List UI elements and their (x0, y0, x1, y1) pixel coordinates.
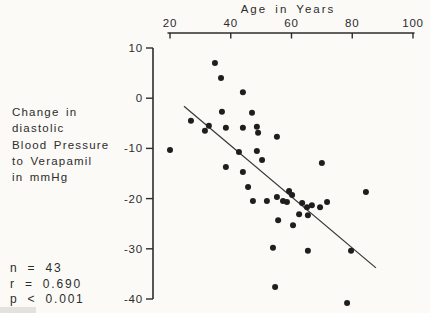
data-point (309, 202, 315, 208)
x-tick-label: 40 (224, 17, 238, 29)
data-point (348, 248, 354, 254)
x-tick-label: 60 (284, 17, 298, 29)
data-point (299, 200, 305, 206)
data-point (223, 125, 229, 131)
data-point (223, 164, 229, 170)
data-point (305, 248, 311, 254)
data-point (167, 147, 173, 153)
x-tick-label: 80 (345, 17, 359, 29)
data-point (254, 124, 260, 130)
y-tick-label: -40 (124, 293, 143, 305)
data-point (202, 128, 208, 134)
data-point (212, 60, 218, 66)
data-point (240, 169, 246, 175)
data-point (305, 212, 311, 218)
x-tick-label: 100 (402, 17, 424, 29)
stat-p: p < 0.001 (10, 292, 85, 308)
stat-r: r = 0.690 (10, 277, 85, 293)
y-axis-label-line: diastolic (12, 120, 109, 136)
stat-n: n = 43 (10, 261, 85, 277)
data-point (250, 198, 256, 204)
data-point (255, 130, 261, 136)
y-tick-label: 10 (129, 42, 143, 54)
data-point (219, 109, 225, 115)
y-axis-label-line: Blood Pressure (12, 137, 109, 153)
data-point (319, 160, 325, 166)
data-point (272, 284, 278, 290)
y-axis-label: Change in diastolic Blood Pressure to Ve… (12, 104, 109, 185)
data-point (259, 157, 265, 163)
data-point (290, 222, 296, 228)
x-axis-title: Age in Years (241, 3, 336, 15)
data-point (289, 192, 295, 198)
y-tick-label: -10 (124, 142, 143, 154)
data-point (274, 194, 280, 200)
scan-artifact (0, 307, 36, 313)
data-point (254, 148, 260, 154)
data-point (324, 199, 330, 205)
data-point (363, 189, 369, 195)
data-point (240, 125, 246, 131)
x-tick-label: 20 (163, 17, 177, 29)
scatter-figure: 20406080100 100-10-20-30-40 Age in Years… (0, 0, 430, 313)
data-point (270, 245, 276, 251)
data-point (275, 217, 281, 223)
data-point (264, 198, 270, 204)
data-point (236, 149, 242, 155)
data-point (284, 199, 290, 205)
data-point (249, 110, 255, 116)
y-axis: 100-10-20-30-40 (124, 42, 153, 305)
y-axis-label-line: to Verapamil (12, 153, 109, 169)
data-point (240, 89, 246, 95)
x-axis: 20406080100 (163, 17, 424, 39)
y-tick-label: -30 (124, 243, 143, 255)
data-point (344, 300, 350, 306)
data-points (167, 60, 369, 306)
data-point (218, 75, 224, 81)
data-point (274, 134, 280, 140)
y-tick-label: -20 (124, 193, 143, 205)
data-point (206, 123, 212, 129)
y-axis-label-line: Change in (12, 104, 109, 120)
y-tick-label: 0 (136, 92, 143, 104)
data-point (296, 211, 302, 217)
y-axis-label-line: in mmHg (12, 169, 109, 185)
stats-annotation: n = 43 r = 0.690 p < 0.001 (10, 261, 85, 308)
data-point (188, 118, 194, 124)
data-point (245, 184, 251, 190)
data-point (317, 204, 323, 210)
regression-line (184, 106, 376, 268)
